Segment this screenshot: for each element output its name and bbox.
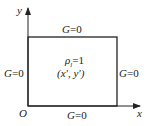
y-axis-label: y	[17, 5, 22, 16]
origin-label: O	[19, 108, 27, 119]
top-boundary-label: GG=0=0	[62, 24, 82, 35]
bottom-boundary-label: G=0	[67, 110, 87, 121]
x-axis-label: x	[137, 108, 142, 119]
left-boundary-label: G=0	[4, 68, 24, 79]
source-point-label: (x', y')	[57, 68, 84, 79]
right-boundary-label: G=0	[119, 68, 139, 79]
